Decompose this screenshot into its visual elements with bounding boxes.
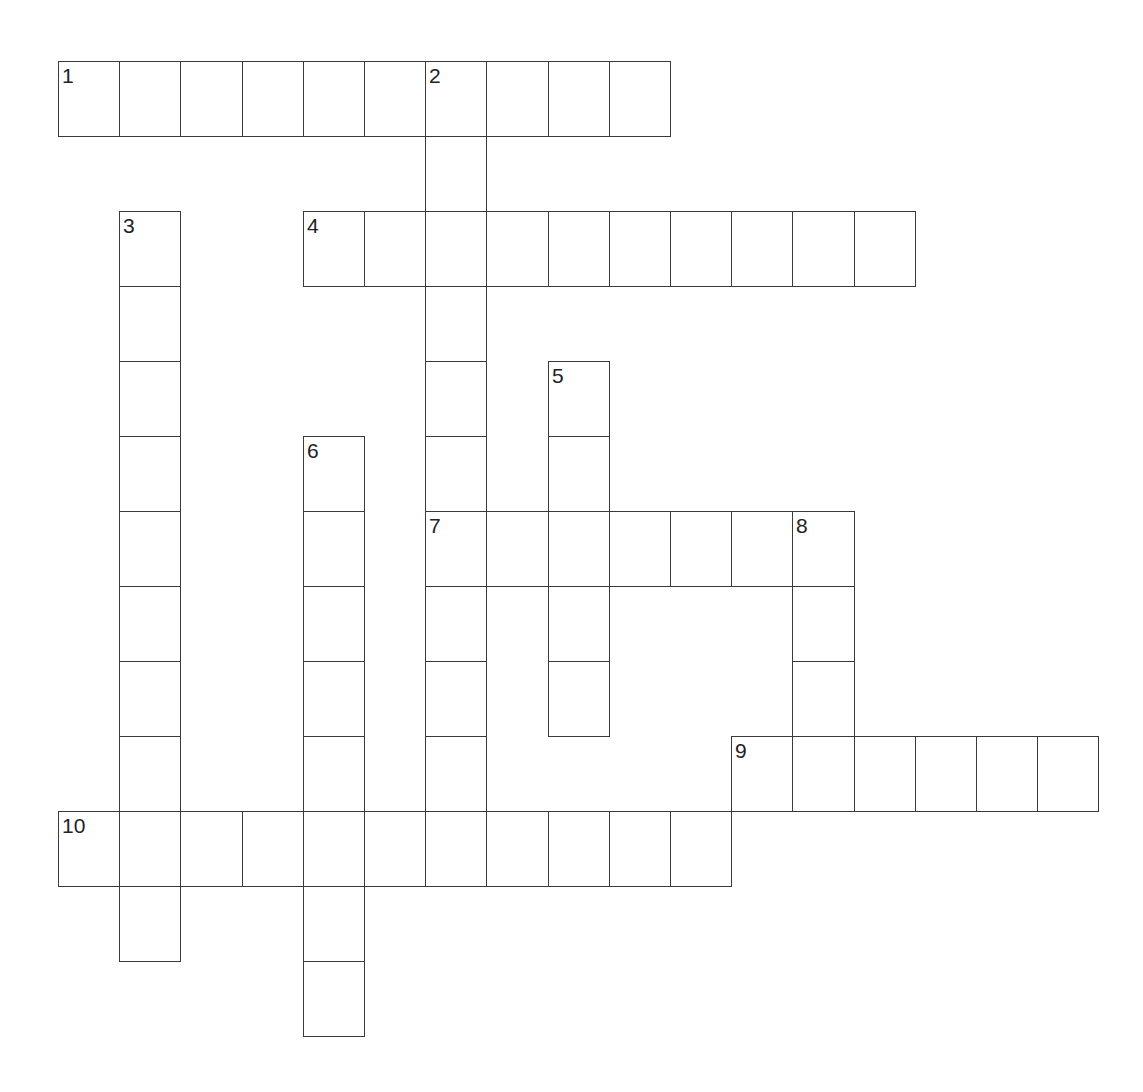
crossword-cell[interactable]	[425, 286, 487, 362]
cell-letter-input[interactable]	[181, 62, 242, 136]
cell-letter-input[interactable]	[977, 737, 1037, 811]
crossword-cell[interactable]	[609, 61, 671, 137]
cell-letter-input[interactable]	[426, 812, 486, 886]
cell-letter-input[interactable]	[426, 587, 486, 661]
cell-letter-input[interactable]	[243, 62, 303, 136]
crossword-cell[interactable]	[303, 586, 365, 662]
cell-letter-input[interactable]	[304, 737, 364, 811]
crossword-cell[interactable]	[548, 211, 610, 287]
crossword-cell[interactable]: 5	[548, 361, 610, 437]
crossword-cell[interactable]	[731, 511, 793, 587]
crossword-cell[interactable]: 4	[303, 211, 365, 287]
crossword-cell[interactable]	[119, 586, 181, 662]
cell-letter-input[interactable]	[120, 362, 180, 436]
cell-letter-input[interactable]	[426, 737, 486, 811]
crossword-cell[interactable]	[548, 661, 610, 737]
crossword-cell[interactable]	[670, 511, 732, 587]
cell-letter-input[interactable]	[610, 62, 670, 136]
crossword-cell[interactable]	[486, 511, 549, 587]
cell-letter-input[interactable]	[304, 587, 364, 661]
crossword-cell[interactable]	[303, 661, 365, 737]
crossword-cell[interactable]	[792, 211, 855, 287]
crossword-cell[interactable]	[792, 661, 855, 737]
cell-letter-input[interactable]	[549, 62, 609, 136]
crossword-cell[interactable]: 10	[58, 811, 120, 887]
crossword-cell[interactable]	[609, 211, 671, 287]
crossword-cell[interactable]	[364, 811, 426, 887]
crossword-cell[interactable]	[425, 136, 487, 212]
cell-letter-input[interactable]	[855, 212, 915, 286]
cell-letter-input[interactable]	[732, 512, 792, 586]
cell-letter-input[interactable]	[120, 887, 180, 961]
cell-letter-input[interactable]	[243, 812, 303, 886]
cell-letter-input[interactable]	[610, 512, 670, 586]
cell-letter-input[interactable]	[549, 512, 609, 586]
crossword-cell[interactable]	[792, 736, 855, 812]
crossword-cell[interactable]: 3	[119, 211, 181, 287]
cell-letter-input[interactable]	[610, 212, 670, 286]
cell-letter-input[interactable]	[426, 137, 486, 211]
crossword-cell[interactable]	[364, 61, 426, 137]
crossword-cell[interactable]	[425, 661, 487, 737]
crossword-cell[interactable]	[425, 586, 487, 662]
crossword-cell[interactable]	[425, 436, 487, 512]
crossword-cell[interactable]	[180, 811, 243, 887]
cell-letter-input[interactable]	[671, 812, 731, 886]
crossword-cell[interactable]	[486, 61, 549, 137]
cell-letter-input[interactable]	[487, 212, 548, 286]
cell-letter-input[interactable]	[120, 512, 180, 586]
crossword-cell[interactable]	[425, 361, 487, 437]
cell-letter-input[interactable]	[426, 662, 486, 736]
cell-letter-input[interactable]	[120, 287, 180, 361]
cell-letter-input[interactable]	[426, 212, 486, 286]
crossword-cell[interactable]	[548, 61, 610, 137]
crossword-cell[interactable]	[303, 961, 365, 1037]
cell-letter-input[interactable]	[793, 212, 854, 286]
cell-letter-input[interactable]	[671, 212, 731, 286]
cell-letter-input[interactable]	[120, 437, 180, 511]
crossword-cell[interactable]	[976, 736, 1038, 812]
cell-letter-input[interactable]	[916, 737, 976, 811]
cell-letter-input[interactable]	[304, 62, 364, 136]
crossword-cell[interactable]	[425, 736, 487, 812]
crossword-cell[interactable]	[854, 211, 916, 287]
cell-letter-input[interactable]	[304, 662, 364, 736]
crossword-cell[interactable]	[1037, 736, 1099, 812]
crossword-cell[interactable]: 7	[425, 511, 487, 587]
crossword-cell[interactable]	[303, 886, 365, 962]
cell-letter-input[interactable]	[120, 812, 180, 886]
crossword-cell[interactable]	[486, 211, 549, 287]
cell-letter-input[interactable]	[304, 887, 364, 961]
crossword-cell[interactable]	[548, 586, 610, 662]
cell-letter-input[interactable]	[549, 812, 609, 886]
crossword-cell[interactable]	[119, 811, 181, 887]
crossword-cell[interactable]	[670, 211, 732, 287]
crossword-cell[interactable]	[303, 736, 365, 812]
cell-letter-input[interactable]	[304, 812, 364, 886]
crossword-cell[interactable]	[609, 511, 671, 587]
crossword-cell[interactable]	[915, 736, 977, 812]
cell-letter-input[interactable]	[793, 662, 854, 736]
cell-letter-input[interactable]	[120, 587, 180, 661]
crossword-cell[interactable]	[119, 61, 181, 137]
crossword-cell[interactable]	[119, 661, 181, 737]
crossword-cell[interactable]	[119, 511, 181, 587]
crossword-cell[interactable]	[548, 511, 610, 587]
crossword-cell[interactable]	[303, 811, 365, 887]
crossword-cell[interactable]	[609, 811, 671, 887]
cell-letter-input[interactable]	[487, 62, 548, 136]
crossword-cell[interactable]	[303, 61, 365, 137]
crossword-cell[interactable]	[792, 586, 855, 662]
cell-letter-input[interactable]	[671, 512, 731, 586]
crossword-cell[interactable]: 6	[303, 436, 365, 512]
cell-letter-input[interactable]	[365, 812, 425, 886]
crossword-cell[interactable]	[425, 211, 487, 287]
cell-letter-input[interactable]	[855, 737, 915, 811]
cell-letter-input[interactable]	[793, 737, 854, 811]
cell-letter-input[interactable]	[426, 287, 486, 361]
cell-letter-input[interactable]	[549, 212, 609, 286]
cell-letter-input[interactable]	[426, 437, 486, 511]
cell-letter-input[interactable]	[365, 212, 425, 286]
cell-letter-input[interactable]	[793, 587, 854, 661]
cell-letter-input[interactable]	[549, 662, 609, 736]
